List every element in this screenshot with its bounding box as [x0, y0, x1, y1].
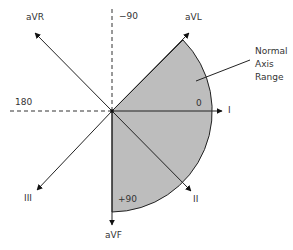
lead-ii-label: II	[193, 194, 198, 205]
lead-iii-arrow	[37, 111, 112, 190]
lead-avl-label: aVL	[185, 12, 202, 23]
lead-i-label: I	[228, 105, 231, 116]
lead-avf-label: aVF	[105, 230, 122, 241]
minus90-label: −90	[119, 11, 138, 22]
normal-axis-range-label: Normal Axis Range	[255, 45, 288, 84]
plus90-label: +90	[118, 194, 137, 205]
180-label: 180	[15, 97, 32, 108]
lead-avr-arrow	[35, 33, 112, 111]
zero-label: 0	[196, 98, 202, 109]
lead-avr-label: aVR	[26, 12, 44, 23]
hexaxial-diagram	[0, 0, 293, 250]
normal-label-line2: Axis	[255, 58, 288, 71]
normal-label-line1: Normal	[255, 45, 288, 58]
lead-iii-label: III	[24, 193, 32, 204]
origin-dot	[110, 109, 114, 113]
normal-label-line3: Range	[255, 71, 288, 84]
